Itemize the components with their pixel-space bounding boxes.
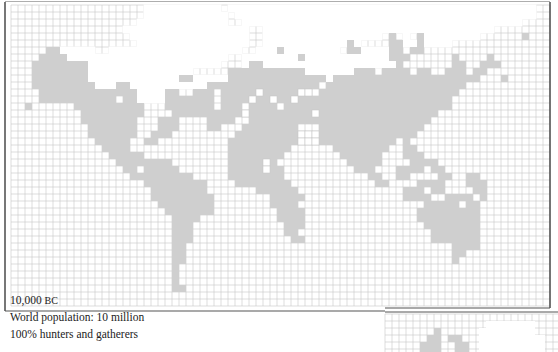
population-label: World population: 10 million bbox=[10, 309, 144, 326]
era-label: 10,000 BC bbox=[10, 292, 144, 309]
world-map-panel: 10,000 BC World population: 10 million 1… bbox=[0, 0, 558, 352]
map-caption: 10,000 BC World population: 10 million 1… bbox=[10, 292, 144, 343]
lifestyle-label: 100% hunters and gatherers bbox=[10, 326, 144, 343]
